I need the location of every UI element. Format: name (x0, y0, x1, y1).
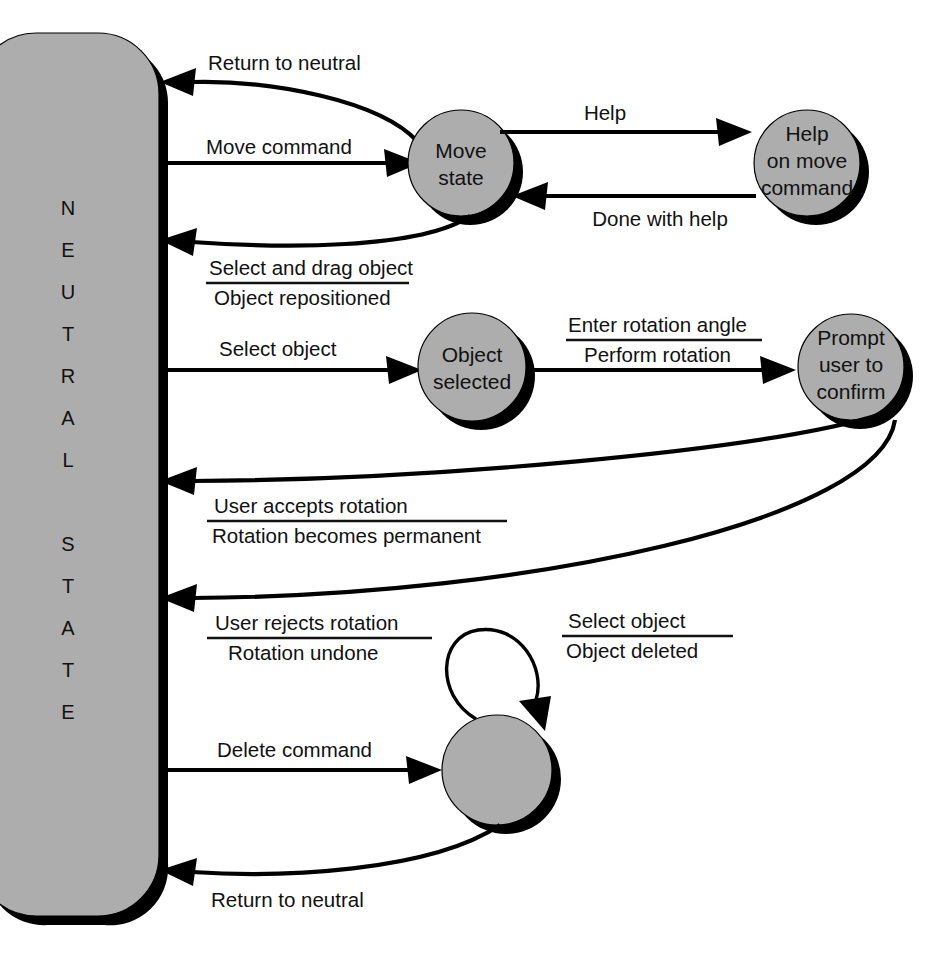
state-label-line: Prompt (817, 326, 885, 349)
transition-delete-self-loop: Select object Object deleted (447, 609, 733, 731)
state-body (442, 715, 552, 825)
state-node-delete-state (442, 715, 561, 834)
transition-label: Move command (206, 135, 352, 158)
transition-action-label: Rotation undone (228, 641, 378, 664)
state-label-line: command (761, 176, 853, 199)
transition-help: Help (500, 101, 752, 146)
neutral-letter-2: U (61, 281, 75, 303)
transition-label: Return to neutral (211, 888, 364, 911)
transition-action-label: Object repositioned (214, 286, 391, 309)
neutral-letter-5: A (61, 407, 75, 429)
state-label-line: on move (767, 149, 848, 172)
transition-event-label: User rejects rotation (215, 611, 398, 634)
neutral-letter-9: T (62, 575, 74, 597)
neutral-letter-8: S (61, 533, 74, 555)
state-label-line: selected (433, 370, 511, 393)
state-label-line: confirm (817, 380, 886, 403)
state-body (418, 313, 526, 421)
transition-event-label: Enter rotation angle (568, 313, 747, 336)
state-label-line: Move (435, 139, 486, 162)
state-node-help-on-move-command: Help on move command (754, 110, 869, 225)
transition-return-to-neutral-move: Return to neutral (160, 51, 418, 142)
transition-enter-rotation-angle: Enter rotation angle Perform rotation (527, 313, 796, 384)
transition-move-command: Move command (162, 135, 420, 177)
neutral-letter-11: T (62, 659, 74, 681)
arrowhead (760, 356, 796, 384)
arrowhead (406, 756, 442, 784)
transition-label: Done with help (592, 207, 728, 230)
neutral-letter-10: A (61, 617, 75, 639)
transition-select-and-drag-object: Select and drag object Object reposition… (160, 216, 470, 309)
arrowhead (386, 356, 422, 384)
transition-action-label: Perform rotation (584, 343, 731, 366)
neutral-state-body (0, 33, 159, 916)
state-body (408, 110, 514, 216)
transition-label: Select object (219, 337, 337, 360)
transition-event-label: Select object (568, 609, 686, 632)
transition-label: Return to neutral (208, 51, 361, 74)
transition-select-object: Select object (162, 337, 422, 384)
transition-action-label: Rotation becomes permanent (212, 524, 481, 547)
transition-label: Delete command (217, 738, 372, 761)
state-label-line: user to (819, 353, 883, 376)
transition-delete-command: Delete command (162, 738, 442, 784)
state-node-prompt-user-to-confirm: Prompt user to confirm (798, 314, 913, 429)
state-node-object-selected: Object selected (418, 313, 535, 430)
neutral-letter-6: L (62, 449, 73, 471)
transition-event-label: User accepts rotation (214, 494, 408, 517)
transition-user-accepts-rotation: User accepts rotation Rotation becomes p… (160, 414, 882, 547)
state-node-move: Move state (408, 110, 523, 225)
neutral-letter-3: T (62, 323, 74, 345)
state-label-line: Object (442, 343, 503, 366)
neutral-letter-4: R (61, 365, 75, 387)
arrowhead (716, 118, 752, 146)
transition-label: Help (584, 101, 626, 124)
neutral-letter-12: E (61, 701, 74, 723)
transition-action-label: Object deleted (566, 639, 698, 662)
state-diagram: N E U T R A L S T A T E Return to neutra… (0, 0, 945, 954)
transition-return-to-neutral-delete: Return to neutral (160, 825, 500, 911)
neutral-letter-1: E (61, 239, 74, 261)
neutral-letter-0: N (61, 197, 75, 219)
state-label-line: Help (785, 122, 828, 145)
transition-event-label: Select and drag object (209, 256, 413, 279)
neutral-state-node: N E U T R A L S T A T E (0, 33, 168, 925)
state-label-line: state (438, 166, 484, 189)
transition-done-with-help: Done with help (512, 182, 756, 230)
